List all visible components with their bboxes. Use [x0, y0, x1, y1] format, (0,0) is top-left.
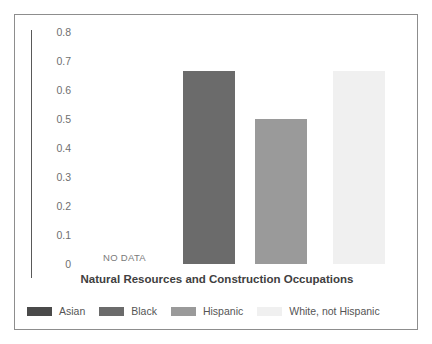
chart-legend: AsianBlackHispanicWhite, not Hispanic [27, 305, 407, 317]
legend-swatch-icon [99, 307, 124, 316]
plot-area: 0.80.70.60.50.40.30.20.10 NO DATA [23, 16, 409, 266]
legend-label: White, not Hispanic [289, 305, 379, 317]
legend-item-white-not-hispanic[interactable]: White, not Hispanic [257, 305, 379, 317]
legend-swatch-icon [171, 307, 196, 316]
chart-title: Natural Resources and Construction Occup… [15, 273, 419, 285]
no-data-label-asian: NO DATA [103, 252, 146, 263]
legend-item-asian[interactable]: Asian [27, 305, 85, 317]
legend-item-black[interactable]: Black [99, 305, 157, 317]
legend-item-hispanic[interactable]: Hispanic [171, 305, 243, 317]
legend-label: Hispanic [203, 305, 243, 317]
legend-swatch-icon [27, 307, 52, 316]
legend-swatch-icon [257, 307, 282, 316]
bar-group: NO DATA [23, 16, 432, 306]
bar-hispanic [255, 119, 307, 264]
legend-label: Asian [59, 305, 85, 317]
bar-black [183, 71, 235, 264]
bar-white-not-hispanic [333, 71, 385, 264]
chart-figure: 0.80.70.60.50.40.30.20.10 NO DATA Natura… [14, 14, 418, 330]
legend-label: Black [131, 305, 157, 317]
